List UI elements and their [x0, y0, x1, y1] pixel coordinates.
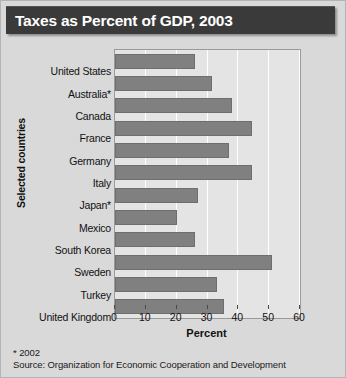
y-axis-tick-label: Japan* — [27, 199, 111, 211]
plot-area — [114, 49, 301, 319]
y-axis-tick-label: South Korea — [27, 244, 111, 256]
x-axis-tick-mark — [299, 305, 300, 309]
x-axis-title: Percent — [114, 327, 299, 339]
x-axis-tick-label: 50 — [253, 311, 283, 323]
bar — [115, 255, 272, 270]
y-axis-tick-label: Sweden — [27, 266, 111, 278]
gridline — [299, 50, 300, 318]
x-axis-tick-label: 10 — [130, 311, 160, 323]
bar — [115, 121, 252, 136]
y-axis-tick-label: Australia* — [27, 88, 111, 100]
page-title: Taxes as Percent of GDP, 2003 — [15, 12, 233, 30]
bar — [115, 232, 195, 247]
x-axis-tick-label: 40 — [222, 311, 252, 323]
x-axis-tick-mark — [114, 305, 115, 309]
y-axis-tick-label: Canada — [27, 110, 111, 122]
x-axis-tick-mark — [268, 305, 269, 309]
x-axis-tick-mark — [207, 305, 208, 309]
chart-figure: Taxes as Percent of GDP, 2003 Selected c… — [0, 0, 346, 378]
bar — [115, 98, 232, 113]
y-axis-tick-label: Germany — [27, 155, 111, 167]
x-axis-tick-label: 60 — [284, 311, 314, 323]
bar — [115, 76, 212, 91]
y-axis-tick-label: Italy — [27, 177, 111, 189]
bar — [115, 165, 252, 180]
bar — [115, 210, 177, 225]
y-axis-tick-labels: United StatesAustralia*CanadaFranceGerma… — [27, 49, 111, 317]
bar — [115, 54, 195, 69]
bar — [115, 143, 229, 158]
bar — [115, 277, 217, 292]
gridline — [268, 50, 269, 318]
chart-title-bar: Taxes as Percent of GDP, 2003 — [6, 6, 335, 34]
y-axis-tick-label: United States — [27, 65, 111, 77]
footnote-asterisk: * 2002 — [13, 347, 333, 359]
footnotes: * 2002 Source: Organization for Economic… — [13, 347, 333, 371]
x-axis-tick-label: 0 — [99, 311, 129, 323]
gridline — [237, 50, 238, 318]
x-axis-tick-mark — [237, 305, 238, 309]
y-axis-tick-label: Mexico — [27, 222, 111, 234]
x-axis-tick-label: 30 — [192, 311, 222, 323]
footnote-source: Source: Organization for Economic Cooper… — [13, 359, 333, 371]
x-axis-tick-mark — [145, 305, 146, 309]
y-axis-title: Selected countries — [15, 103, 27, 223]
chart-plot-region: Selected countries United StatesAustrali… — [1, 37, 346, 337]
bar — [115, 188, 198, 203]
x-axis-tick-label: 20 — [161, 311, 191, 323]
y-axis-tick-label: France — [27, 132, 111, 144]
y-axis-tick-label: Turkey — [27, 289, 111, 301]
x-axis-tick-mark — [176, 305, 177, 309]
